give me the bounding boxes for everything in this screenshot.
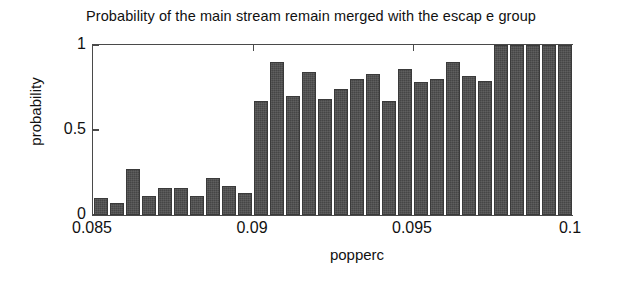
x-tick-label-0.1: 0.1	[559, 219, 581, 237]
bar	[318, 99, 332, 215]
x-tick-label-0.09: 0.09	[236, 219, 267, 237]
bar	[158, 188, 172, 215]
bar	[206, 178, 220, 215]
bar	[494, 45, 508, 215]
bar	[270, 62, 284, 215]
x-tick-label-0.085: 0.085	[72, 219, 112, 237]
figure-container: Probability of the main stream remain me…	[0, 0, 622, 281]
bar	[142, 196, 156, 215]
bar	[286, 96, 300, 215]
bar	[174, 188, 188, 215]
bar	[542, 45, 556, 215]
bar	[94, 198, 108, 215]
bar	[446, 62, 460, 215]
y-tick-label-0.5: 0.5	[64, 120, 86, 138]
bar	[398, 69, 412, 215]
bar	[478, 81, 492, 215]
y-axis-label: probability	[27, 32, 44, 192]
bar	[558, 45, 572, 215]
bar	[334, 89, 348, 215]
y-tick-label-1: 1	[77, 35, 86, 53]
x-tick-label-0.095: 0.095	[392, 219, 432, 237]
bar	[430, 79, 444, 215]
bar	[462, 76, 476, 215]
bar	[510, 45, 524, 215]
bar	[302, 72, 316, 215]
bar	[350, 79, 364, 215]
x-axis-label: popperc	[0, 246, 622, 263]
bar	[382, 101, 396, 215]
bar	[110, 203, 124, 215]
bar	[254, 101, 268, 215]
bar	[222, 186, 236, 215]
chart-title: Probability of the main stream remain me…	[0, 8, 622, 24]
bar	[414, 82, 428, 215]
plot-area	[92, 44, 573, 216]
bar	[126, 169, 140, 215]
bar	[238, 193, 252, 215]
bar-series	[93, 45, 573, 215]
bar	[366, 74, 380, 215]
bar	[526, 45, 540, 215]
bar	[190, 196, 204, 215]
